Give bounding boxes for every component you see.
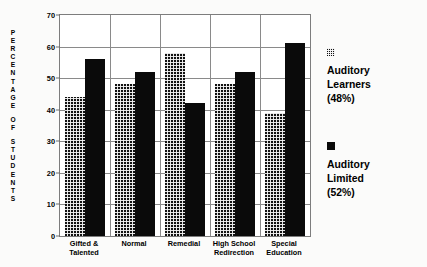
y-axis-tick-mark	[56, 141, 60, 142]
legend-label-auditory-learners: Auditory Learners (48%)	[327, 64, 423, 105]
legend-swatch-solid-icon	[327, 142, 335, 150]
y-axis-tick-mark	[56, 46, 60, 47]
y-axis-tick-label: 60	[47, 42, 55, 51]
y-axis-tick-mark	[56, 15, 60, 16]
y-axis-tick-mark	[56, 78, 60, 79]
legend-entry-auditory-learners: Auditory Learners (48%)	[327, 46, 423, 105]
y-axis-tick-mark	[56, 172, 60, 173]
bar-auditory-learners	[65, 97, 85, 236]
bar-auditory-learners	[265, 113, 285, 236]
legend-label-line-3: (48%)	[327, 92, 423, 106]
y-axis-tick-mark	[56, 109, 60, 110]
legend-label-line-3: (52%)	[327, 186, 423, 200]
bar-auditory-limited	[185, 103, 205, 236]
x-axis-tick-label: High School Redirection	[209, 240, 259, 258]
y-axis-tick-mark	[56, 204, 60, 205]
y-axis-tick-label: 30	[47, 137, 55, 146]
x-axis-tick-label: Gifted & Talented	[59, 240, 109, 258]
bar-auditory-learners	[215, 84, 235, 236]
y-axis-tick-label: 0	[51, 232, 55, 241]
plot-area: 010203040506070	[59, 14, 311, 237]
y-axis-tick-label: 10	[47, 200, 55, 209]
y-axis-tick-label: 40	[47, 105, 55, 114]
bar-auditory-limited	[135, 72, 155, 236]
y-axis-tick-label: 50	[47, 74, 55, 83]
y-axis-tick-label: 70	[47, 11, 55, 20]
legend-entry-auditory-limited: Auditory Limited (52%)	[327, 140, 423, 199]
bar-auditory-limited	[285, 43, 305, 236]
bar-auditory-learners	[165, 53, 185, 236]
y-axis-title-letter: S	[11, 196, 15, 204]
x-axis-tick-label: Normal	[109, 240, 159, 249]
legend-swatch-hatched-icon	[327, 48, 335, 56]
legend-label-line-2: Learners	[327, 78, 423, 92]
legend-label-line-1: Auditory	[327, 158, 423, 172]
x-axis-tick-label: Special Education	[259, 240, 309, 258]
bar-chart-figure: PERCENTAGEOFSTUDENTS 010203040506070 Aud…	[0, 0, 427, 267]
bar-auditory-limited	[235, 72, 255, 236]
x-axis-tick-label: Remedial	[159, 240, 209, 249]
y-axis-title-letter: E	[11, 103, 15, 111]
plot-inner: 010203040506070	[60, 15, 310, 236]
y-axis-tick-label: 20	[47, 168, 55, 177]
gridline-vertical	[160, 15, 161, 236]
legend-label-line-2: Limited	[327, 172, 423, 186]
y-axis-tick-mark	[56, 236, 60, 237]
gridline-vertical	[210, 15, 211, 236]
gridline-vertical	[110, 15, 111, 236]
y-axis-title: PERCENTAGEOFSTUDENTS	[6, 30, 20, 230]
bar-auditory-learners	[115, 84, 135, 236]
legend-label-line-1: Auditory	[327, 64, 423, 78]
gridline-vertical	[260, 15, 261, 236]
bar-auditory-limited	[85, 59, 105, 236]
y-axis-title-letter: F	[11, 125, 15, 133]
legend-label-auditory-limited: Auditory Limited (52%)	[327, 158, 423, 199]
gridline-horizontal	[60, 47, 310, 48]
